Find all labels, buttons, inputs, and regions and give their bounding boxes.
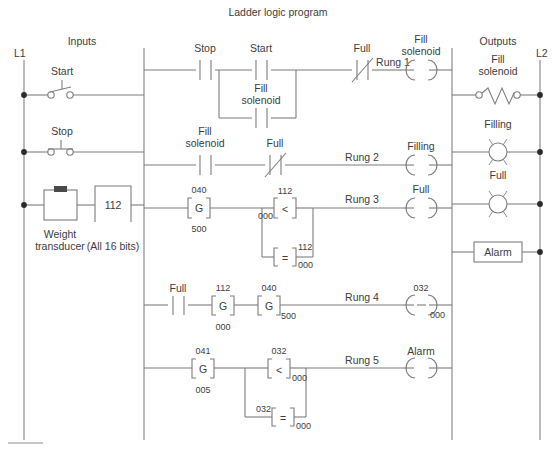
rung3-eq-top: 112	[298, 242, 312, 252]
l2-node-alarm	[537, 249, 543, 255]
rung-4-label: Rung 4	[345, 291, 379, 303]
rung4-get040-glyph: G	[265, 300, 273, 312]
fill-solenoid-output[interactable]: Fill solenoid	[452, 53, 543, 104]
rung4-get112-glyph: G	[219, 300, 227, 312]
page-title: Ladder logic program	[228, 6, 327, 18]
rung3-lt-left: 000	[258, 211, 273, 221]
outputs-section-label: Outputs	[480, 35, 517, 47]
alarm-output[interactable]: Alarm	[452, 242, 543, 262]
transducer-body	[44, 190, 77, 220]
rung1-start-contact[interactable]	[256, 60, 267, 80]
rung3-eq-glyph: =	[282, 252, 288, 264]
rung4-output-coil-032[interactable]: 032 000	[406, 283, 445, 320]
weight-transducer-label-1: Weight	[44, 228, 77, 240]
rung1-coil-label-2: solenoid	[401, 45, 440, 57]
diagram-canvas: Ladder logic program Inputs Outputs L1 L…	[0, 0, 557, 458]
rung5-eq-bottom-right: 000	[296, 421, 311, 431]
l2-node-fill-solenoid	[537, 92, 543, 98]
rung2-full-contact[interactable]	[265, 153, 286, 177]
transducer-tab	[54, 186, 67, 192]
filling-lamp-bulb	[489, 143, 507, 161]
l2-node-full	[537, 201, 543, 207]
start-terminal-left	[48, 92, 54, 98]
rung1-seal-contact-label-2: solenoid	[241, 94, 280, 106]
rung2-fill-solenoid-contact[interactable]	[200, 155, 211, 175]
start-pushbutton-label: Start	[51, 65, 73, 77]
rung5-lt-bottom-right: 000	[292, 373, 307, 383]
rung-3: 040 G 500 112 < 000	[144, 183, 452, 270]
rung4-full-contact-label: Full	[170, 282, 187, 294]
stop-terminal-right	[67, 149, 73, 155]
l1-label: L1	[14, 47, 26, 59]
fill-solenoid-terminal-left	[476, 92, 482, 98]
rung-2: Fill solenoid Full Rung 2 Filling	[144, 125, 452, 177]
rung5-get041-glyph: G	[199, 363, 207, 375]
rung2-fill-solenoid-label-1: Fill	[198, 125, 211, 137]
rung1-stop-contact[interactable]	[200, 60, 211, 80]
rung5-get-block-041[interactable]: 041 G 005	[192, 346, 214, 395]
rung4-get040-bottom-right: 500	[281, 311, 296, 321]
rung4-get112-bottom: 000	[215, 322, 230, 332]
l1-node-start	[21, 92, 27, 98]
rung1-seal-contact-label-1: Fill	[254, 82, 267, 94]
l1-node-transducer	[21, 202, 27, 208]
analog-input-word-block[interactable]: 112 (All 16 bits)	[87, 186, 144, 252]
rung1-coil-label-1: Fill	[414, 33, 427, 45]
rung2-full-contact-slash	[265, 153, 286, 177]
rung3-get-glyph: G	[195, 202, 203, 214]
rung1-fill-solenoid-seal-branch[interactable]: Fill solenoid	[219, 70, 296, 128]
rung4-get112-top: 112	[216, 283, 230, 293]
full-lamp-label: Full	[490, 169, 507, 181]
rung3-compare-branch: 112 < 000 = 112 000	[258, 186, 313, 270]
rung1-full-contact[interactable]	[352, 58, 373, 82]
stop-pushbutton[interactable]: Stop	[21, 125, 144, 155]
rung3-lt-glyph: <	[282, 203, 288, 215]
rung-5: 041 G 005 032 < 000 032	[144, 345, 452, 431]
rung5-get041-top: 041	[195, 346, 210, 356]
rung3-coil-label: Full	[413, 183, 430, 195]
ladder-logic-diagram: Ladder logic program Inputs Outputs L1 L…	[0, 0, 557, 458]
full-lamp-bulb	[489, 195, 507, 213]
rung-1: Stop Start Fill solenoid Full	[144, 33, 452, 128]
rung3-equal-block[interactable]: = 112 000	[274, 242, 313, 270]
filling-lamp-label: Filling	[484, 118, 512, 130]
start-pushbutton[interactable]: Start	[21, 65, 144, 98]
rung5-lt-glyph: <	[276, 364, 282, 376]
rung2-full-contact-label: Full	[267, 137, 284, 149]
rung-3-label: Rung 3	[345, 193, 379, 205]
rung5-compare-branch: 032 < 000 032 = 000	[245, 346, 311, 431]
inputs-section-label: Inputs	[68, 35, 97, 47]
weight-transducer[interactable]: Weight transducer	[21, 186, 95, 252]
rung-2-label: Rung 2	[345, 151, 379, 163]
rung2-coil-label: Filling	[407, 140, 435, 152]
rung5-less-than-block[interactable]: 032 < 000	[268, 346, 307, 383]
full-lamp-output[interactable]: Full	[452, 169, 543, 217]
stop-terminal-left	[48, 149, 54, 155]
rung1-stop-contact-label: Stop	[194, 42, 216, 54]
rung3-get-top: 040	[191, 185, 206, 195]
rung3-eq-bottom: 000	[298, 260, 313, 270]
rung1-full-contact-slash	[352, 58, 373, 82]
rung4-coil-top: 032	[413, 283, 428, 293]
l2-node-filling	[537, 149, 543, 155]
rung5-lt-top: 032	[271, 346, 286, 356]
rung5-eq-left: 032	[256, 404, 271, 414]
rung3-get-block-040[interactable]: 040 G 500	[188, 185, 210, 234]
rung1-start-contact-label: Start	[250, 42, 272, 54]
rung3-get-bottom: 500	[191, 224, 206, 234]
rung4-get-block-112[interactable]: 112 G 000	[212, 283, 234, 332]
stop-pushbutton-label: Stop	[51, 125, 73, 137]
fill-solenoid-zigzag	[482, 88, 514, 104]
rung-4: Full 112 G 000 040 G 500 Rung 4 032	[144, 282, 452, 332]
weight-transducer-label-2: transducer	[35, 240, 85, 252]
rung2-fill-solenoid-label-2: solenoid	[185, 137, 224, 149]
fill-solenoid-output-label-1: Fill	[491, 53, 504, 65]
filling-lamp-output[interactable]: Filling	[452, 118, 543, 165]
rung4-get-block-040[interactable]: 040 G 500	[258, 283, 296, 321]
fill-solenoid-output-label-2: solenoid	[478, 65, 517, 77]
rung3-less-than-block[interactable]: 112 < 000	[258, 186, 296, 221]
rung4-full-contact[interactable]	[173, 296, 184, 315]
rung4-coil-bottom-right: 000	[430, 310, 445, 320]
rung3-lt-top: 112	[278, 186, 292, 196]
start-terminal-right	[67, 92, 73, 98]
